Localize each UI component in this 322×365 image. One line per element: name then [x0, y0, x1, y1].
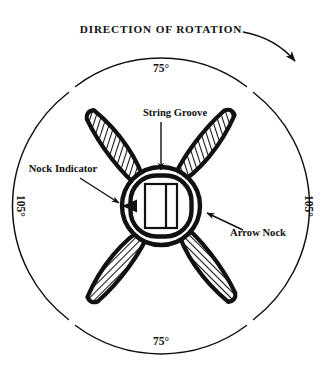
- nock-indicator-label: Nock Indicator: [29, 163, 98, 174]
- wheel-diagram-svg: DIRECTION OF ROTATION 75° 75° 105° 105°: [0, 0, 322, 365]
- angle-label-bottom: 75°: [153, 335, 170, 347]
- figure-title: DIRECTION OF ROTATION: [80, 23, 242, 35]
- arrow-nock-label: Arrow Nock: [230, 227, 286, 238]
- string-groove-slot: [145, 184, 177, 228]
- angle-label-left: 105°: [15, 195, 27, 217]
- hub-group: [122, 167, 200, 245]
- string-groove-label: String Groove: [143, 107, 208, 118]
- diagram-canvas: DIRECTION OF ROTATION 75° 75° 105° 105°: [0, 0, 322, 365]
- angle-label-right: 105°: [303, 195, 315, 217]
- angle-label-top: 75°: [153, 62, 170, 74]
